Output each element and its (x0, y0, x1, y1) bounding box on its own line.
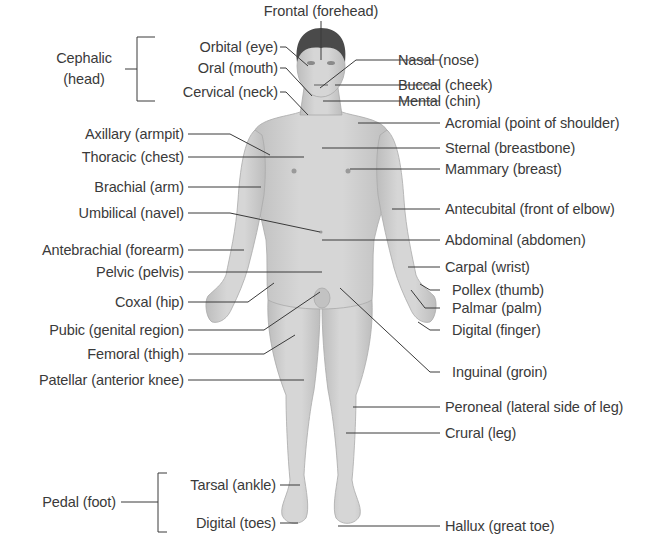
label-thoracic: Thoracic (chest) (0, 149, 184, 166)
label-antebrachial: Antebrachial (forearm) (0, 242, 184, 259)
label-oral: Oral (mouth) (120, 60, 278, 77)
label-buccal: Buccal (cheek) (398, 77, 493, 94)
label-sternal: Sternal (breastbone) (445, 140, 575, 157)
label-pelvic: Pelvic (pelvis) (0, 264, 184, 281)
label-hallux: Hallux (great toe) (445, 518, 554, 535)
label-peroneal: Peroneal (lateral side of leg) (445, 399, 623, 416)
label-acromial: Acromial (point of shoulder) (445, 115, 620, 132)
label-axillary: Axillary (armpit) (0, 126, 184, 143)
label-cervical: Cervical (neck) (120, 84, 278, 101)
label-inguinal: Inguinal (groin) (452, 364, 547, 381)
label-antecubital: Antecubital (front of elbow) (445, 201, 615, 218)
label-orbital: Orbital (eye) (120, 39, 278, 56)
label-cephalic: Cephalic (40, 50, 128, 67)
label-frontal: Frontal (forehead) (250, 3, 392, 20)
label-pollex: Pollex (thumb) (452, 282, 544, 299)
label-pedal: Pedal (foot) (0, 494, 116, 511)
label-abdominal: Abdominal (abdomen) (445, 232, 586, 249)
label-mental: Mental (chin) (398, 93, 481, 110)
label-pubic: Pubic (genital region) (0, 322, 184, 339)
label-crural: Crural (leg) (445, 425, 516, 442)
label-nasal: Nasal (nose) (398, 52, 479, 69)
label-coxal: Coxal (hip) (0, 294, 184, 311)
label-mammary: Mammary (breast) (445, 161, 562, 178)
label-femoral: Femoral (thigh) (0, 346, 184, 363)
label-brachial: Brachial (arm) (0, 179, 184, 196)
label-head: (head) (40, 71, 128, 88)
label-patellar: Patellar (anterior knee) (0, 372, 184, 389)
label-carpal: Carpal (wrist) (445, 259, 530, 276)
label-umbilical: Umbilical (navel) (0, 205, 184, 222)
label-digital-toes: Digital (toes) (150, 515, 276, 532)
label-digital-finger: Digital (finger) (452, 322, 541, 339)
anterior-body-regions-diagram: Frontal (forehead) Cephalic (head) Pedal… (0, 0, 662, 541)
label-palmar: Palmar (palm) (452, 300, 542, 317)
label-cephalic-group: Cephalic (head) (40, 50, 128, 88)
label-tarsal: Tarsal (ankle) (150, 477, 276, 494)
